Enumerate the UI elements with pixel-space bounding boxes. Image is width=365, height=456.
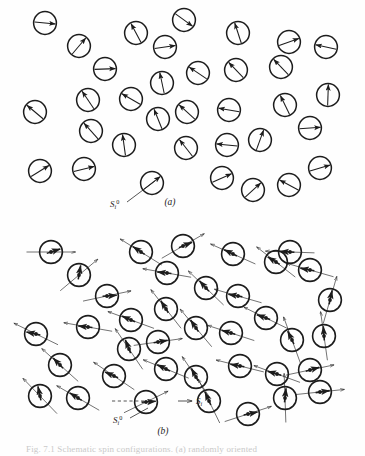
particle-a-2 — [94, 58, 117, 81]
particle-a-17 — [147, 108, 170, 131]
particle-center-dot — [38, 394, 42, 398]
figure-caption-strip: Fig. 7.1 Schematic spin configurations. … — [0, 445, 365, 456]
particle-center-dot — [156, 340, 160, 344]
particle-center-dot — [194, 326, 198, 330]
particle-a-4 — [154, 36, 177, 59]
particle-a-6 — [151, 72, 174, 95]
particle-a-21 — [176, 101, 199, 124]
particle-center-dot — [129, 318, 133, 322]
particle-center-dot — [76, 396, 80, 400]
figure-root: Si0Si0Si (a) (b) Fig. 7.1 Schematic spin… — [0, 0, 365, 456]
particle-center-dot — [164, 367, 168, 371]
particle-center-dot — [308, 368, 312, 372]
particle-center-dot — [58, 363, 62, 367]
particle-center-dot — [204, 286, 208, 290]
spin-configuration-figure: Si0Si0Si (a) (b) — [0, 0, 365, 456]
particle-center-dot — [127, 347, 131, 351]
particle-a-24 — [216, 134, 239, 157]
particle-center-dot — [246, 412, 250, 416]
spin-arrow — [280, 251, 294, 252]
particle-a-15 — [77, 89, 100, 112]
particle-a-7 — [187, 62, 210, 85]
particle-a-3 — [125, 22, 148, 45]
spin-arrow — [142, 401, 156, 402]
panel-b-label: (b) — [157, 426, 168, 437]
particle-center-dot — [238, 364, 242, 368]
particle-center-dot — [112, 374, 116, 378]
particle-center-dot — [181, 244, 185, 248]
particle-center-dot — [318, 390, 322, 394]
particle-center-dot — [105, 294, 109, 298]
particle-a-9 — [225, 59, 248, 82]
particle-a-31 — [242, 179, 265, 202]
particle-center-dot — [194, 375, 198, 379]
particle-a-10 — [278, 31, 301, 54]
particle-a-11 — [315, 36, 338, 59]
particle-center-dot — [231, 252, 235, 256]
particle-center-dot — [49, 250, 53, 254]
particle-a-1 — [68, 35, 91, 58]
particle-a-0 — [34, 12, 57, 35]
particle-a-12 — [270, 56, 293, 79]
particle-center-dot — [274, 260, 278, 264]
particle-a-16 — [120, 88, 143, 111]
spin-arrow — [95, 69, 116, 70]
particle-a-25 — [249, 129, 272, 152]
particle-center-dot — [290, 338, 294, 342]
particle-center-dot — [328, 298, 332, 302]
spin-arrow — [323, 326, 324, 340]
particle-a-32 — [278, 174, 301, 197]
particle-center-dot — [34, 332, 38, 336]
particle-center-dot — [139, 250, 143, 254]
spin-arrow — [328, 85, 329, 106]
particle-a-18 — [24, 101, 47, 124]
particle-a-30 — [211, 167, 234, 190]
spin-arrow — [103, 295, 117, 296]
particle-a-22 — [175, 137, 198, 160]
particle-center-dot — [308, 268, 312, 272]
particle-center-dot — [236, 294, 240, 298]
particle-a-5 — [173, 9, 196, 32]
particle-a-26 — [299, 117, 322, 140]
particle-center-dot — [144, 400, 148, 404]
particle-a-20 — [113, 134, 136, 157]
particle-a-33 — [309, 157, 332, 180]
particle-center-dot — [77, 273, 81, 277]
particle-center-dot — [264, 316, 268, 320]
particle-center-dot — [207, 399, 211, 403]
particle-center-dot — [288, 250, 292, 254]
particle-a-23 — [218, 99, 241, 122]
particle-center-dot — [86, 325, 90, 329]
particle-center-dot — [165, 271, 169, 275]
particle-a-28 — [73, 158, 96, 181]
particle-center-dot — [164, 307, 168, 311]
particle-a-14 — [317, 84, 340, 107]
particle-center-dot — [283, 396, 287, 400]
particle-a-19 — [80, 120, 103, 143]
particle-center-dot — [275, 372, 279, 376]
particle-center-dot — [229, 331, 233, 335]
panel-a-label: (a) — [164, 197, 175, 208]
particle-center-dot — [322, 334, 326, 338]
particle-a-8 — [227, 22, 250, 45]
particle-a-27 — [29, 160, 52, 183]
figure-caption: Fig. 7.1 Schematic spin configurations. … — [26, 445, 257, 454]
particle-a-13 — [274, 94, 297, 117]
